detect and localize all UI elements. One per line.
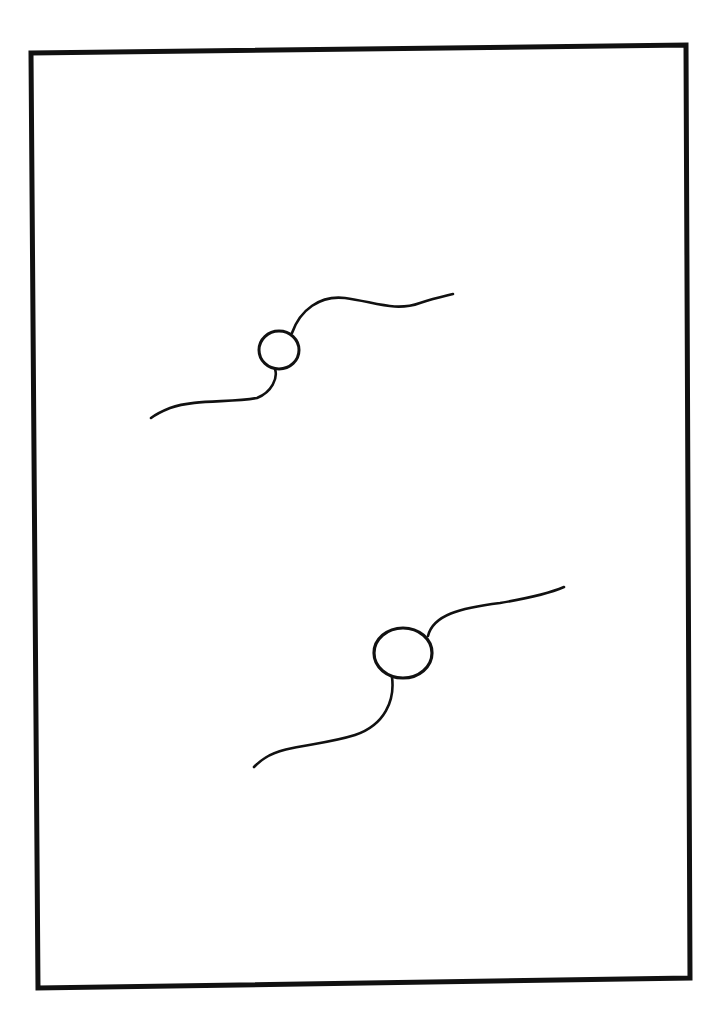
lower-figure bbox=[254, 587, 564, 767]
drawing-frame bbox=[31, 45, 690, 988]
upper-figure-circle bbox=[259, 331, 299, 369]
upper-figure-right-curve bbox=[292, 294, 453, 333]
drawing-canvas bbox=[0, 0, 724, 1025]
lower-figure-circle bbox=[374, 628, 432, 678]
upper-figure bbox=[151, 294, 453, 418]
upper-figure-left-curve bbox=[151, 369, 276, 418]
lower-figure-right-curve bbox=[428, 587, 564, 636]
lower-figure-left-curve bbox=[254, 677, 393, 767]
